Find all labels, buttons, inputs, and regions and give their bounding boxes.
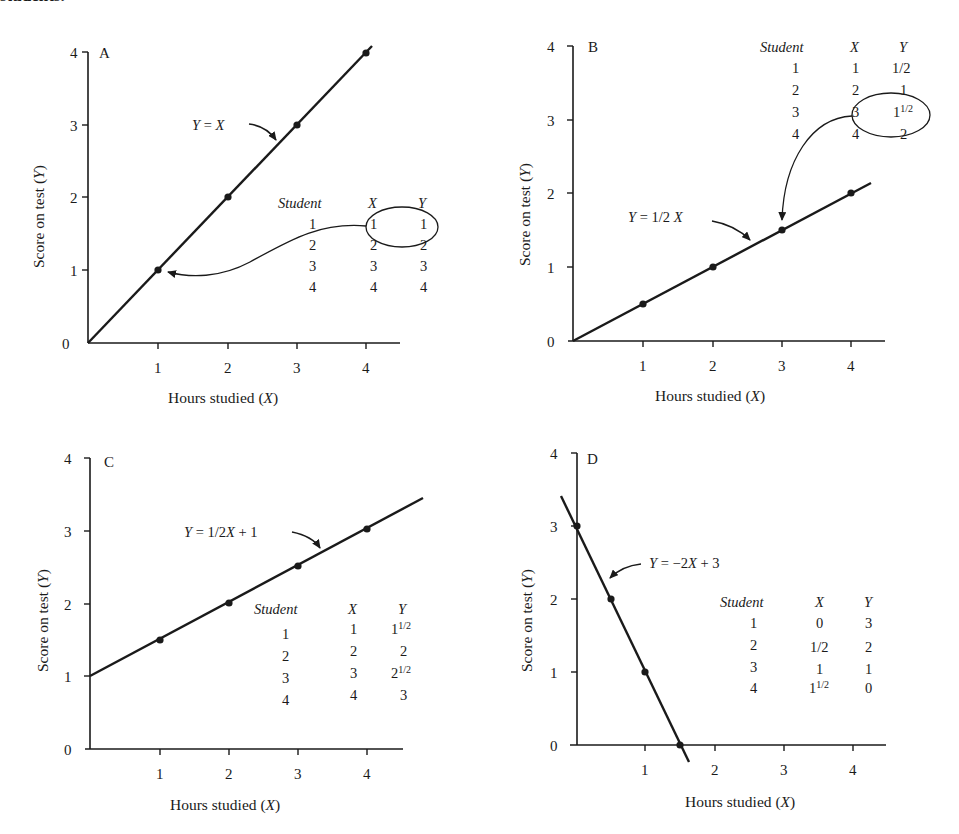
data-table: Student X Y 1 2 3 4 1 2 3 4 1/2 1 11/2 2 xyxy=(760,39,913,142)
svg-text:2: 2 xyxy=(225,766,233,782)
svg-text:11/2: 11/2 xyxy=(809,679,829,696)
svg-text:1/2: 1/2 xyxy=(892,60,911,76)
svg-text:4: 4 xyxy=(309,279,317,295)
svg-text:1: 1 xyxy=(64,669,72,685)
svg-text:2: 2 xyxy=(350,643,357,659)
svg-text:X: X xyxy=(367,195,378,211)
x-tick-2: 2 xyxy=(224,360,232,376)
x-tick-1: 1 xyxy=(154,360,162,376)
svg-text:3: 3 xyxy=(370,258,377,274)
y-tick-0: 0 xyxy=(62,336,70,352)
svg-text:2: 2 xyxy=(400,643,407,659)
y-tick-4: 4 xyxy=(70,45,78,61)
svg-text:Student: Student xyxy=(254,601,298,617)
equation-label: Y = X xyxy=(192,117,226,133)
svg-text:3: 3 xyxy=(865,615,872,631)
svg-text:2: 2 xyxy=(309,237,316,253)
svg-text:4: 4 xyxy=(750,680,758,696)
data-point xyxy=(154,266,161,273)
svg-text:1/2: 1/2 xyxy=(810,639,829,655)
callout-arrow xyxy=(168,225,366,275)
svg-text:0: 0 xyxy=(865,680,872,696)
svg-text:4: 4 xyxy=(64,451,72,467)
svg-text:11/2: 11/2 xyxy=(893,103,913,120)
svg-text:1: 1 xyxy=(641,762,649,778)
equation-label: Y = 1/2 X xyxy=(628,209,684,225)
x-axis-label: Hours studied (X) xyxy=(168,389,278,407)
svg-text:Y: Y xyxy=(418,195,428,211)
svg-text:Y: Y xyxy=(398,601,408,617)
svg-text:4: 4 xyxy=(792,126,800,142)
svg-text:4: 4 xyxy=(363,766,371,782)
svg-text:3: 3 xyxy=(400,687,407,703)
svg-text:2: 2 xyxy=(709,358,717,374)
svg-text:1: 1 xyxy=(750,615,757,631)
svg-text:X: X xyxy=(814,594,825,610)
svg-text:3: 3 xyxy=(350,665,357,681)
data-point xyxy=(362,49,369,56)
svg-text:3: 3 xyxy=(309,258,316,274)
svg-text:3: 3 xyxy=(294,766,302,782)
equation-label: Y = −2X + 3 xyxy=(649,555,719,571)
panel-d: 4 3 2 1 0 1 2 3 4 Hours studied (X) Scor… xyxy=(518,446,886,811)
x-axis-label: Hours studied (X) xyxy=(655,387,765,405)
svg-text:2: 2 xyxy=(420,237,427,253)
svg-text:2: 2 xyxy=(750,637,757,653)
svg-text:4: 4 xyxy=(852,126,860,142)
svg-text:4: 4 xyxy=(282,692,290,708)
svg-text:Y: Y xyxy=(864,594,874,610)
equation-arrow xyxy=(610,564,641,578)
equation-label: Y = 1/2X + 1 xyxy=(184,524,258,540)
svg-text:3: 3 xyxy=(550,519,558,535)
data-point xyxy=(293,121,300,128)
svg-text:3: 3 xyxy=(750,659,757,675)
svg-text:1: 1 xyxy=(900,82,907,98)
svg-text:2: 2 xyxy=(64,597,72,613)
y-tick-1: 1 xyxy=(70,263,78,279)
svg-text:2: 2 xyxy=(711,762,719,778)
svg-text:1: 1 xyxy=(156,766,164,782)
svg-text:Y: Y xyxy=(899,39,909,55)
y-axis-label: Score on test (Y) xyxy=(516,163,534,266)
svg-text:X: X xyxy=(347,601,358,617)
svg-text:21/2: 21/2 xyxy=(391,664,411,681)
svg-text:0: 0 xyxy=(547,334,555,350)
svg-text:0: 0 xyxy=(64,742,72,758)
data-table: Student X Y 1 2 3 4 1 2 3 4 11/2 2 21/2 … xyxy=(254,601,411,708)
svg-text:1: 1 xyxy=(420,216,427,232)
svg-text:1: 1 xyxy=(550,665,558,681)
svg-text:4: 4 xyxy=(849,762,857,778)
svg-text:0: 0 xyxy=(550,738,558,754)
panel-letter: C xyxy=(104,454,114,470)
svg-text:3: 3 xyxy=(282,670,289,686)
svg-text:3: 3 xyxy=(792,104,799,120)
figure: 4 3 2 1 0 1 2 3 4 Hours studied (X) Scor… xyxy=(0,0,959,834)
panel-a: 4 3 2 1 0 1 2 3 4 Hours studied (X) Scor… xyxy=(30,45,438,407)
svg-text:1: 1 xyxy=(865,661,872,677)
highlight-ellipse xyxy=(852,93,930,137)
data-table: Student X Y 1 2 3 4 1 2 3 4 1 2 3 4 xyxy=(278,195,428,295)
svg-text:3: 3 xyxy=(420,258,427,274)
svg-text:2: 2 xyxy=(792,82,799,98)
regression-line xyxy=(561,496,689,762)
x-axis-label: Hours studied (X) xyxy=(685,793,795,811)
data-point xyxy=(224,193,231,200)
svg-text:4: 4 xyxy=(420,279,428,295)
svg-text:4: 4 xyxy=(350,687,358,703)
svg-text:2: 2 xyxy=(852,82,859,98)
svg-text:Student: Student xyxy=(760,39,804,55)
svg-text:4: 4 xyxy=(847,358,855,374)
y-tick-3: 3 xyxy=(70,118,78,134)
x-tick-3: 3 xyxy=(293,360,301,376)
svg-text:2: 2 xyxy=(282,648,289,664)
data-table: Student X Y 1 2 3 4 0 1/2 1 11/2 3 2 1 0 xyxy=(720,594,874,696)
svg-text:1: 1 xyxy=(370,216,377,232)
equation-arrow xyxy=(292,532,320,548)
svg-text:0: 0 xyxy=(816,615,823,631)
svg-text:3: 3 xyxy=(64,524,72,540)
svg-text:1: 1 xyxy=(350,621,357,637)
svg-text:4: 4 xyxy=(370,279,378,295)
svg-text:2: 2 xyxy=(900,126,907,142)
x-axis-label: Hours studied (X) xyxy=(170,796,280,814)
svg-text:Student: Student xyxy=(278,195,322,211)
